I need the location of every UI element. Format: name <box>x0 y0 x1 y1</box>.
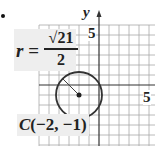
fraction-bar <box>44 48 78 50</box>
circle-graph-figure: y 5 5 r = √21 2 C(−2, −1) <box>0 0 155 152</box>
radius-variable: r = <box>16 40 39 62</box>
fraction-numerator: √21 <box>44 29 78 47</box>
radius-fraction: √21 2 <box>44 29 78 69</box>
center-point <box>77 93 82 98</box>
radius-line <box>63 79 79 95</box>
center-coords: (−2, −1) <box>30 115 86 134</box>
y-axis-label: y <box>83 4 90 21</box>
radius-label: r = √21 2 <box>14 29 76 71</box>
y-axis-arrow-icon <box>97 10 102 17</box>
bullet-marker <box>1 14 5 18</box>
center-name: C <box>19 115 30 134</box>
radius-var-text: r <box>16 40 23 61</box>
equals-sign: = <box>28 40 39 61</box>
x-tick-5: 5 <box>143 90 151 105</box>
center-label: C(−2, −1) <box>17 114 89 136</box>
y-tick-5: 5 <box>88 26 96 41</box>
fraction-denominator: 2 <box>44 51 78 69</box>
